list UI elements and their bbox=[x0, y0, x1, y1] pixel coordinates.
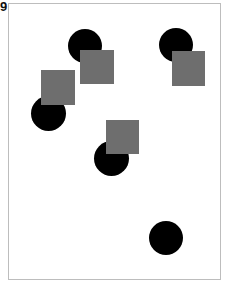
black-circle bbox=[149, 221, 183, 255]
gray-square bbox=[106, 120, 139, 154]
gray-square bbox=[172, 51, 205, 86]
panel-label: 9 bbox=[0, 0, 7, 13]
gray-square bbox=[80, 50, 114, 84]
gray-square bbox=[41, 70, 75, 105]
